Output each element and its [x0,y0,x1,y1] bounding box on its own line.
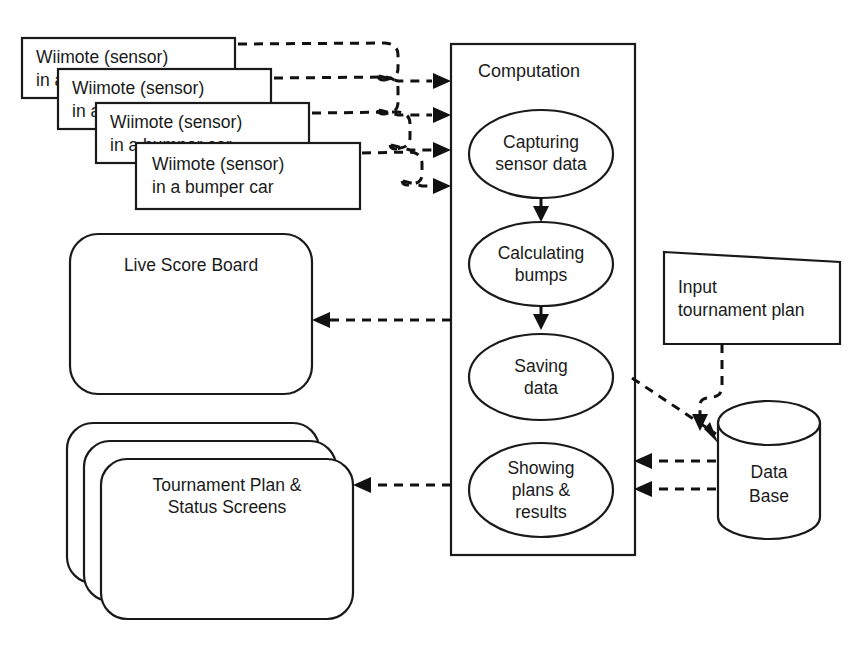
connector-input-plan-to-database [692,344,722,431]
wiimote-box-2-line1: Wiimote (sensor) [72,78,204,98]
process-capturing-sensor-data[interactable]: Capturing sensor data [469,110,613,198]
connector-computation-to-live-score-board [312,312,451,328]
wiimote-sensor-stack: Wiimote (sensor) in a bumper car Wiimote… [22,38,360,209]
process-calculating-bumps[interactable]: Calculating bumps [469,222,613,306]
computation-container[interactable]: Computation Capturing sensor data Calcul… [451,44,635,555]
tournament-screens-line2: Status Screens [168,497,287,517]
process-capturing-line2: sensor data [495,154,587,174]
wiimote-box-4[interactable]: Wiimote (sensor) in a bumper car [136,143,360,209]
wiimote-box-4-line2: in a bumper car [152,177,274,197]
architecture-diagram: Wiimote (sensor) in a bumper car Wiimote… [0,0,864,657]
arrowhead-database-to-showing-1 [634,453,652,469]
input-tournament-plan-line1: Input [678,277,717,297]
connector-computation-to-tournament-screens [353,477,451,493]
input-tournament-plan-line2: tournament plan [678,300,804,320]
arrowhead-wiimote-4 [433,178,451,194]
arrowhead-wiimote-1 [433,73,451,89]
process-saving-line2: data [524,378,558,398]
diagram-canvas: Wiimote (sensor) in a bumper car Wiimote… [0,0,864,657]
process-showing-line2: plans & [512,480,571,500]
tournament-screens-stack: Tournament Plan & Status Screens [67,423,353,619]
arrowhead-wiimote-3 [433,142,451,158]
connector-database-to-showing-2 [634,481,716,497]
process-calculating-line1: Calculating [498,243,585,263]
database-line1: Data [751,462,788,482]
live-score-board-label: Live Score Board [124,255,258,275]
database-cylinder[interactable]: Data Base [718,401,820,539]
wiimote-box-3-line1: Wiimote (sensor) [110,112,242,132]
tournament-screen-front[interactable]: Tournament Plan & Status Screens [101,459,353,619]
process-showing-line3: results [515,502,567,522]
process-calculating-line2: bumps [515,265,568,285]
arrowhead-to-tournament-screens [353,477,371,493]
process-saving-data[interactable]: Saving data [469,334,613,420]
arrowhead-to-live-score-board [312,312,330,328]
connector-wiimote-4-to-computation [362,152,451,194]
connector-database-to-showing-1 [634,453,716,469]
arrowhead-wiimote-2 [433,107,451,123]
process-capturing-line1: Capturing [503,132,579,152]
process-saving-line1: Saving [514,356,568,376]
process-showing-plans-results[interactable]: Showing plans & results [469,443,613,537]
live-score-board[interactable]: Live Score Board [70,234,312,394]
database-line2: Base [749,486,789,506]
connector-saving-to-database [632,378,718,443]
computation-title: Computation [478,61,580,81]
arrowhead-database-to-showing-2 [634,481,652,497]
tournament-screens-line1: Tournament Plan & [153,475,302,495]
process-showing-line1: Showing [507,458,574,478]
input-tournament-plan[interactable]: Input tournament plan [664,252,840,344]
wiimote-box-1-line1: Wiimote (sensor) [36,47,168,67]
wiimote-box-4-line1: Wiimote (sensor) [152,154,284,174]
